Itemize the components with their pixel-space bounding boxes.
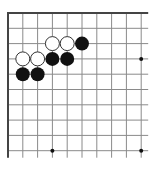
black-stone[interactable] <box>75 37 89 51</box>
white-stone[interactable] <box>45 37 59 51</box>
black-stone[interactable] <box>60 52 74 66</box>
star-point-icon <box>139 57 143 61</box>
black-stone[interactable] <box>45 52 59 66</box>
black-stone[interactable] <box>31 67 45 81</box>
go-board[interactable] <box>0 0 160 177</box>
white-stone[interactable] <box>60 37 74 51</box>
white-stone[interactable] <box>16 52 30 66</box>
board-grid <box>8 12 148 158</box>
black-stone[interactable] <box>16 67 30 81</box>
star-point-icon <box>139 149 143 153</box>
star-point-icon <box>50 149 54 153</box>
white-stone[interactable] <box>31 52 45 66</box>
